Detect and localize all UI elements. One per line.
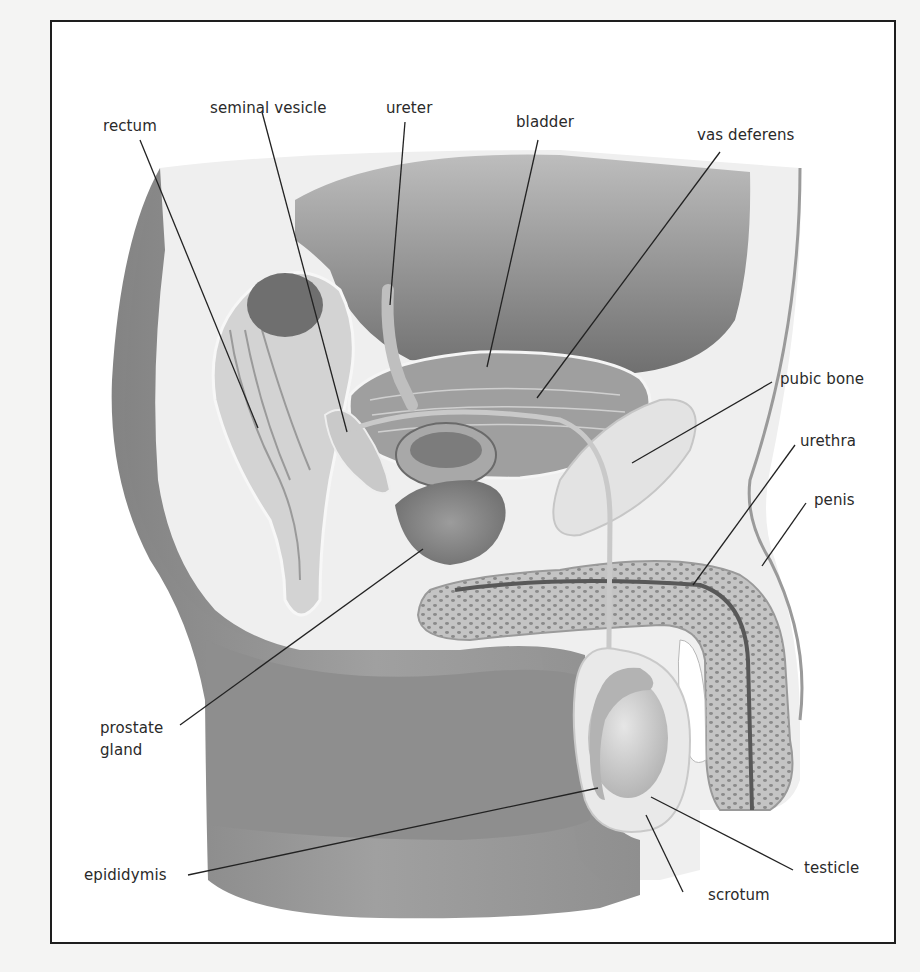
label-pubic-bone: pubic bone — [780, 369, 864, 389]
label-epididymis: epididymis — [84, 865, 167, 885]
label-penis: penis — [814, 490, 855, 510]
label-rectum: rectum — [103, 116, 157, 136]
label-testicle: testicle — [804, 858, 859, 878]
label-vas-deferens: vas deferens — [697, 125, 795, 145]
label-prostate-gland-line1: prostate — [100, 718, 163, 738]
leader-penis — [762, 503, 806, 566]
label-prostate-gland-line2: gland — [100, 740, 142, 760]
anatomy-illustration — [0, 0, 920, 972]
label-urethra: urethra — [800, 431, 856, 451]
label-seminal-vesicle: seminal vesicle — [210, 98, 327, 118]
prostate-organ — [395, 423, 506, 565]
label-ureter: ureter — [386, 98, 432, 118]
label-scrotum: scrotum — [708, 885, 770, 905]
label-bladder: bladder — [516, 112, 574, 132]
